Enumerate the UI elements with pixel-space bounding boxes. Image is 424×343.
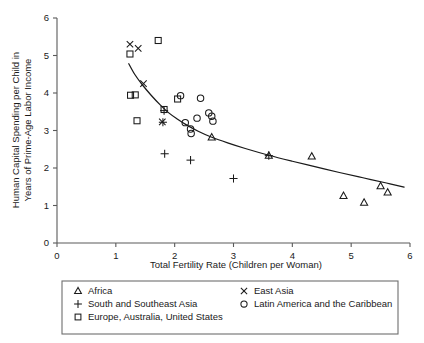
legend-items: AfricaEast AsiaSouth and Southeast AsiaL… <box>74 285 392 322</box>
data-point <box>229 174 237 182</box>
fit-curve <box>129 64 404 187</box>
legend-item-europe-australia-united-states[interactable]: Europe, Australia, United States <box>75 311 223 322</box>
y-tick-label: 0 <box>44 237 49 248</box>
data-point <box>308 153 315 159</box>
data-point <box>135 45 141 51</box>
legend-plus-icon <box>74 300 82 308</box>
data-point <box>377 182 384 188</box>
y-tick-label: 3 <box>44 125 49 136</box>
data-point <box>127 41 133 47</box>
y-axis-ticks: 0123456 <box>44 12 57 248</box>
legend-circle-icon <box>241 301 247 307</box>
legend-item-label: South and Southeast Asia <box>88 298 198 309</box>
legend-cross-icon <box>241 288 247 294</box>
legend-item-label: Latin America and the Caribbean <box>254 298 392 309</box>
y-axis-title: Human Capital Spending per Child in Year… <box>10 52 33 208</box>
data-point <box>340 192 347 198</box>
legend-triangle-icon <box>75 287 82 293</box>
data-point <box>127 51 133 57</box>
y-tick-label: 5 <box>44 50 49 61</box>
legend-square-icon <box>75 314 81 320</box>
data-series-group <box>127 37 391 205</box>
x-axis-title: Total Fertility Rate (Children per Woman… <box>150 259 322 270</box>
x-tick-label: 6 <box>407 250 412 261</box>
y-axis-title-line-2: Years of Prime-Age Labor Income <box>22 59 33 202</box>
series-europe-australia-united-states <box>127 37 181 123</box>
data-point <box>161 150 169 158</box>
legend-item-label: East Asia <box>254 285 294 296</box>
legend-item-label: Europe, Australia, United States <box>88 311 223 322</box>
y-tick-label: 1 <box>44 200 49 211</box>
legend-item-south-and-southeast-asia[interactable]: South and Southeast Asia <box>74 298 198 309</box>
y-tick-label: 4 <box>44 87 49 98</box>
y-axis-title-line-1: Human Capital Spending per Child in <box>10 52 21 208</box>
x-tick-label: 0 <box>54 250 59 261</box>
legend: AfricaEast AsiaSouth and Southeast AsiaL… <box>62 281 398 334</box>
legend-item-latin-america-and-the-caribbean[interactable]: Latin America and the Caribbean <box>241 298 392 309</box>
data-point <box>361 199 368 205</box>
data-point <box>194 115 200 121</box>
scatter-chart-figure: 0123456 0123456 Total Fertility Rate (Ch… <box>0 0 424 343</box>
chart-canvas: 0123456 0123456 Total Fertility Rate (Ch… <box>0 0 424 343</box>
data-point <box>155 37 161 43</box>
y-tick-label: 6 <box>44 12 49 23</box>
legend-item-label: Africa <box>88 285 113 296</box>
series-africa <box>208 134 391 206</box>
data-point <box>134 118 140 124</box>
x-tick-label: 1 <box>113 250 118 261</box>
data-point <box>384 189 391 195</box>
data-point <box>197 95 203 101</box>
legend-item-africa[interactable]: Africa <box>75 285 113 296</box>
legend-item-east-asia[interactable]: East Asia <box>241 285 294 296</box>
data-point <box>186 156 194 164</box>
axes: 0123456 0123456 <box>44 12 413 261</box>
data-point <box>188 130 194 136</box>
y-tick-label: 2 <box>44 162 49 173</box>
x-tick-label: 5 <box>349 250 354 261</box>
